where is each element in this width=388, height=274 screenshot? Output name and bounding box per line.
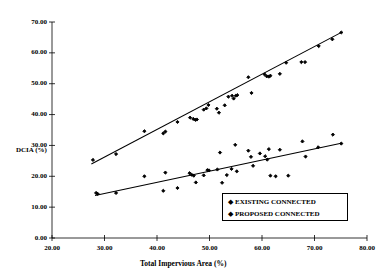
data-point <box>217 111 220 114</box>
data-point <box>225 173 228 176</box>
data-point <box>340 142 343 145</box>
x-tick-label: 80.00 <box>354 244 380 252</box>
data-point <box>247 76 250 79</box>
y-tick-label: 0.00 <box>22 234 47 242</box>
chart-legend: ◆ EXISTING CONNECTED ◆ PROPOSED CONNECTE… <box>222 193 348 221</box>
data-points-group <box>91 31 343 196</box>
y-tick-label: 60.00 <box>22 48 47 56</box>
data-point <box>274 175 277 178</box>
data-point <box>202 174 205 177</box>
data-point <box>301 140 304 143</box>
data-point <box>215 107 218 110</box>
x-tick-label: 60.00 <box>249 244 275 252</box>
data-point <box>114 152 117 155</box>
legend-item-existing-connected: ◆ EXISTING CONNECTED <box>226 196 344 208</box>
legend-label-existing-connected: EXISTING CONNECTED <box>235 196 316 208</box>
y-tick-label: 20.00 <box>22 172 47 180</box>
data-point <box>247 149 250 152</box>
data-point <box>223 104 226 107</box>
data-point <box>278 72 281 75</box>
data-point <box>227 95 230 98</box>
data-point <box>234 143 237 146</box>
data-point <box>264 155 267 158</box>
data-point <box>218 151 221 154</box>
data-point <box>176 120 179 123</box>
data-point <box>235 170 238 173</box>
data-point <box>162 189 165 192</box>
data-point <box>267 148 270 151</box>
data-point <box>176 186 179 189</box>
x-tick-label: 20.00 <box>39 244 65 252</box>
x-tick-label: 50.00 <box>197 244 223 252</box>
data-point <box>287 174 290 177</box>
data-point <box>143 175 146 178</box>
legend-marker-diamond-icon: ◆ <box>226 210 235 219</box>
data-point <box>143 130 146 133</box>
data-point <box>278 148 281 151</box>
scatter-plot-canvas <box>0 0 388 274</box>
y-tick-label: 10.00 <box>22 203 47 211</box>
data-point <box>300 61 303 64</box>
data-point <box>114 191 117 194</box>
data-point <box>269 174 272 177</box>
y-tick-label: 50.00 <box>22 79 47 87</box>
legend-label-proposed-connected: PROPOSED CONNECTED <box>235 208 320 220</box>
data-point <box>221 181 224 184</box>
x-tick-label: 40.00 <box>144 244 170 252</box>
legend-marker-diamond-icon: ◆ <box>226 198 235 207</box>
y-tick-label: 70.00 <box>22 18 47 26</box>
trendline-existing-connected <box>91 32 342 164</box>
data-point <box>250 91 253 94</box>
y-axis-label: DCIA (%) <box>16 146 47 154</box>
data-point <box>216 168 219 171</box>
chart-container: 0.0010.0020.0030.0040.0050.0060.0070.002… <box>0 0 388 274</box>
x-tick-label: 30.00 <box>92 244 118 252</box>
y-tick-label: 40.00 <box>22 110 47 118</box>
data-point <box>249 155 252 158</box>
data-point <box>331 133 334 136</box>
data-point <box>164 171 167 174</box>
data-point <box>258 152 261 155</box>
x-axis-label: Total Impervious Area (%) <box>140 259 226 268</box>
data-point <box>207 103 210 106</box>
data-point <box>303 61 306 64</box>
data-point <box>230 167 233 170</box>
data-point <box>194 181 197 184</box>
data-point <box>304 155 307 158</box>
x-tick-label: 70.00 <box>302 244 328 252</box>
data-point <box>91 158 94 161</box>
data-point <box>251 164 254 167</box>
legend-item-proposed-connected: ◆ PROPOSED CONNECTED <box>226 208 344 220</box>
